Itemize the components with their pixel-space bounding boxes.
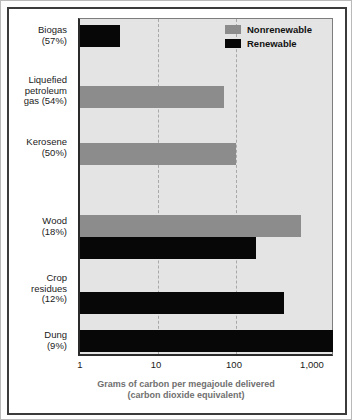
category-label-line: (9%) bbox=[0, 341, 67, 352]
bar-kerosene-nonrenewable bbox=[80, 143, 236, 165]
category-label-line: Kerosene bbox=[0, 137, 67, 148]
category-label-liquefied-petroleum-gas: Liquefied petroleum gas (54%) bbox=[0, 75, 67, 107]
legend-item-nonrenewable: Nonrenewable bbox=[225, 24, 335, 35]
bar-wood-nonrenewable bbox=[80, 215, 301, 237]
bar-lpg-nonrenewable bbox=[80, 86, 224, 108]
bar-wood-renewable bbox=[80, 237, 256, 259]
x-tick-1: 1 bbox=[77, 359, 82, 370]
category-label-dung: Dung (9%) bbox=[0, 330, 67, 351]
legend-swatch-nonrenewable-icon bbox=[225, 25, 241, 34]
bar-crop-residues-renewable bbox=[80, 292, 284, 314]
category-label-line: (18%) bbox=[0, 227, 67, 238]
category-label-kerosene: Kerosene (50%) bbox=[0, 137, 67, 158]
legend: Nonrenewable Renewable bbox=[225, 24, 335, 52]
category-label-line: Wood bbox=[0, 216, 67, 227]
category-label-line: gas (54%) bbox=[0, 96, 67, 107]
x-axis-caption-line1: Grams of carbon per megajoule delivered bbox=[41, 379, 331, 390]
category-label-line: Biogas bbox=[0, 25, 67, 36]
legend-swatch-renewable-icon bbox=[225, 39, 241, 48]
legend-label-renewable: Renewable bbox=[247, 38, 297, 49]
category-label-line: (12%) bbox=[0, 294, 67, 305]
category-label-biogas: Biogas (57%) bbox=[0, 25, 67, 46]
x-tick-10: 10 bbox=[151, 359, 162, 370]
legend-label-nonrenewable: Nonrenewable bbox=[247, 24, 312, 35]
x-axis-caption-line2: (carbon dioxide equivalent) bbox=[41, 390, 331, 401]
category-label-crop-residues: Crop residues (12%) bbox=[0, 273, 67, 305]
category-label-wood: Wood (18%) bbox=[0, 216, 67, 237]
category-label-line: (57%) bbox=[0, 36, 67, 47]
category-label-line: Crop bbox=[0, 273, 67, 284]
bar-biogas-renewable bbox=[80, 25, 120, 47]
plot-area: Nonrenewable Renewable bbox=[78, 18, 333, 356]
x-axis-caption: Grams of carbon per megajoule delivered … bbox=[41, 379, 331, 401]
category-label-line: Liquefied bbox=[0, 75, 67, 86]
bar-dung-renewable bbox=[80, 330, 333, 352]
figure-frame: Biogas (57%) Liquefied petroleum gas (54… bbox=[0, 0, 352, 420]
legend-item-renewable: Renewable bbox=[225, 38, 335, 49]
x-tick-1000: 1,000 bbox=[300, 359, 324, 370]
x-tick-100: 100 bbox=[226, 359, 242, 370]
category-label-line: (50%) bbox=[0, 148, 67, 159]
category-label-line: Dung bbox=[0, 330, 67, 341]
